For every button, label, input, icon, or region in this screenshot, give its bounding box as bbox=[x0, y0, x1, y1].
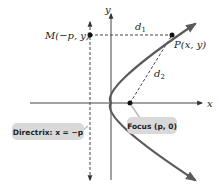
point-p bbox=[170, 33, 175, 38]
point-m-label: M(−p, y) bbox=[44, 30, 90, 41]
point-focus bbox=[128, 101, 133, 106]
focus-label: Focus (p, 0) bbox=[127, 122, 177, 131]
x-axis-label: x bbox=[207, 98, 213, 109]
directrix-callout: Directrix: x = −p bbox=[12, 123, 88, 140]
d1-label: d1 bbox=[135, 21, 146, 34]
directrix-label: Directrix: x = −p bbox=[13, 128, 84, 137]
point-p-label: P(x, y) bbox=[173, 39, 206, 50]
y-axis-label: y bbox=[104, 4, 111, 15]
focus-callout: Focus (p, 0) bbox=[127, 105, 177, 134]
parabola-diagram: y x M(−p, y) P(x, y) d1 d2 Directrix: x … bbox=[0, 0, 219, 192]
d2-label: d2 bbox=[154, 68, 165, 81]
